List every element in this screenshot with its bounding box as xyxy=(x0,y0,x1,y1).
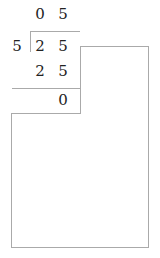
dividend-digit-1: 2 xyxy=(34,38,46,54)
box-bottom xyxy=(11,247,149,248)
quotient-digit-2: 5 xyxy=(57,6,69,22)
box-left xyxy=(11,113,12,248)
quotient-digit-1: 0 xyxy=(34,6,46,22)
dividend-digit-2: 5 xyxy=(57,38,69,54)
remainder: 0 xyxy=(57,92,69,108)
box-inner-step xyxy=(80,46,81,114)
box-top-left xyxy=(11,113,81,114)
division-bracket xyxy=(30,31,31,52)
subtraction-line xyxy=(12,88,80,89)
subtrahend-digit-1: 2 xyxy=(34,63,46,79)
box-top-right xyxy=(80,46,149,47)
box-right xyxy=(148,46,149,248)
subtrahend-digit-2: 5 xyxy=(57,63,69,79)
divisor: 5 xyxy=(11,38,23,54)
division-bar xyxy=(30,31,80,32)
